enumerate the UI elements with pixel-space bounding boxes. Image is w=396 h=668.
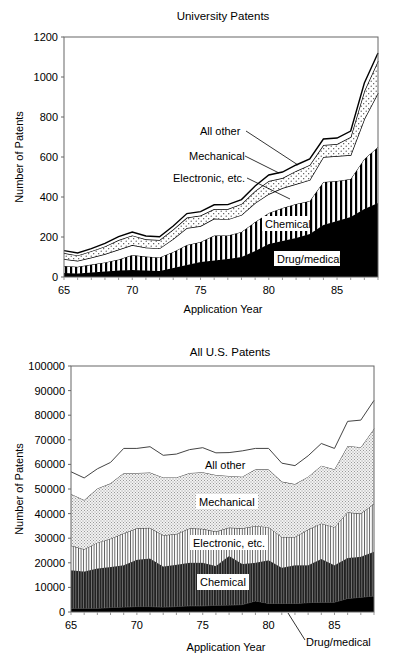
svg-text:600: 600 xyxy=(40,151,58,163)
svg-text:65: 65 xyxy=(65,619,77,631)
x-axis-ticks: 6570758085 xyxy=(58,277,378,296)
svg-text:All other: All other xyxy=(200,125,241,137)
svg-text:90000: 90000 xyxy=(34,385,65,397)
annotation-mechanical: Mechanical xyxy=(189,150,279,173)
university-patents-chart: University Patents 020040060080010001200… xyxy=(13,10,378,315)
svg-text:85: 85 xyxy=(331,284,343,296)
svg-text:50000: 50000 xyxy=(34,483,65,495)
x-axis-ticks: 6570758085 xyxy=(65,612,374,631)
patent-charts: University Patents 020040060080010001200… xyxy=(0,0,396,668)
chart-title: University Patents xyxy=(177,10,270,22)
svg-text:75: 75 xyxy=(197,619,209,631)
svg-text:10000: 10000 xyxy=(34,581,65,593)
svg-text:Drug/medical: Drug/medical xyxy=(277,253,342,265)
all-us-patents-chart: All U.S. Patents 01000020000300004000050… xyxy=(13,346,374,653)
svg-text:20000: 20000 xyxy=(34,557,65,569)
svg-text:800: 800 xyxy=(40,111,58,123)
x-axis-label: Application Year xyxy=(187,641,266,653)
svg-text:70: 70 xyxy=(126,284,138,296)
stacked-areas xyxy=(64,53,378,277)
svg-text:80000: 80000 xyxy=(34,409,65,421)
svg-text:Mechanical: Mechanical xyxy=(189,150,245,162)
chart-title: All U.S. Patents xyxy=(190,346,271,358)
svg-text:100000: 100000 xyxy=(28,360,65,372)
svg-text:Chemical: Chemical xyxy=(200,576,246,588)
svg-text:400: 400 xyxy=(40,191,58,203)
svg-text:65: 65 xyxy=(58,284,70,296)
svg-text:80: 80 xyxy=(262,619,274,631)
svg-text:Mechanical: Mechanical xyxy=(199,496,255,508)
svg-text:75: 75 xyxy=(194,284,206,296)
x-axis-label: Application Year xyxy=(184,303,263,315)
svg-text:80: 80 xyxy=(263,284,275,296)
svg-text:Electronic, etc.: Electronic, etc. xyxy=(173,172,245,184)
svg-text:Drug/medical: Drug/medical xyxy=(306,636,371,648)
svg-text:60000: 60000 xyxy=(34,458,65,470)
y-axis-ticks: 0100002000030000400005000060000700008000… xyxy=(28,360,71,618)
annotation-chemical: Chemical xyxy=(262,216,311,231)
annotation-mechanical: Mechanical xyxy=(196,494,258,509)
annotation-chemical: Chemical xyxy=(197,574,249,590)
svg-text:1200: 1200 xyxy=(34,31,58,43)
svg-text:1000: 1000 xyxy=(34,71,58,83)
y-axis-ticks: 020040060080010001200 xyxy=(34,31,64,283)
svg-text:200: 200 xyxy=(40,231,58,243)
svg-text:0: 0 xyxy=(52,271,58,283)
svg-text:85: 85 xyxy=(328,619,340,631)
y-axis-label: Number of Patents xyxy=(13,443,25,535)
annotation-electronic: Electronic, etc. xyxy=(190,535,268,550)
y-axis-label: Number of Patents xyxy=(13,111,25,203)
svg-text:All other: All other xyxy=(205,459,246,471)
svg-text:70000: 70000 xyxy=(34,434,65,446)
annotation-all-other: All other xyxy=(205,459,246,471)
svg-text:30000: 30000 xyxy=(34,532,65,544)
svg-text:70: 70 xyxy=(131,619,143,631)
svg-text:0: 0 xyxy=(59,606,65,618)
svg-text:Electronic, etc.: Electronic, etc. xyxy=(193,537,265,549)
svg-text:40000: 40000 xyxy=(34,508,65,520)
annotation-drug-medical: Drug/medical xyxy=(274,251,342,266)
svg-text:Chemical: Chemical xyxy=(265,218,311,230)
